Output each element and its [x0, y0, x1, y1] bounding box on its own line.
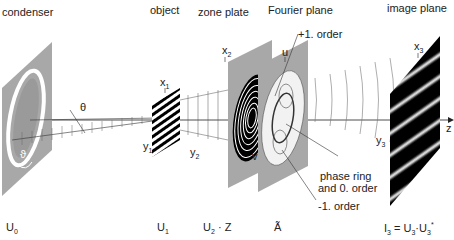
wavefronts: [315, 58, 394, 142]
theta-label: θ: [80, 101, 86, 113]
phase-ring-label-1: phase ring: [320, 170, 371, 182]
axis-x1: x1: [160, 76, 169, 90]
axis-y3: y3: [376, 134, 385, 148]
field-u2z: U2 · Z: [203, 221, 231, 235]
object-title: object: [150, 4, 179, 16]
minus-first-order-label: -1. order: [318, 200, 360, 212]
condenser-plane: [2, 42, 52, 196]
image-plane: [390, 36, 440, 206]
axis-u: u: [282, 46, 288, 58]
object-grating: [152, 88, 180, 157]
axis-y2: y2: [190, 146, 199, 160]
image-plane-title: image plane: [387, 2, 447, 14]
field-a-tilde: Ã: [274, 221, 281, 233]
axis-x2: x2: [222, 44, 231, 58]
optics-diagram: [0, 0, 454, 240]
axis-y1: y1: [143, 140, 152, 154]
fourier-plane-title: Fourier plane: [268, 4, 333, 16]
field-i3: I3 = U3·U3*: [384, 221, 434, 236]
axis-v: v: [252, 150, 258, 162]
phase-ring-label-2: and 0. order: [318, 182, 377, 194]
zone-plate-title: zone plate: [198, 6, 249, 18]
field-u1: U1: [157, 221, 169, 235]
plus-first-order-label: +1. order: [298, 28, 342, 40]
axis-x3: x3: [414, 40, 423, 54]
axis-z: z: [446, 122, 452, 134]
phi-label: ϑ: [20, 148, 26, 160]
condenser-title: condenser: [2, 6, 53, 18]
field-u0: U0: [6, 221, 18, 235]
